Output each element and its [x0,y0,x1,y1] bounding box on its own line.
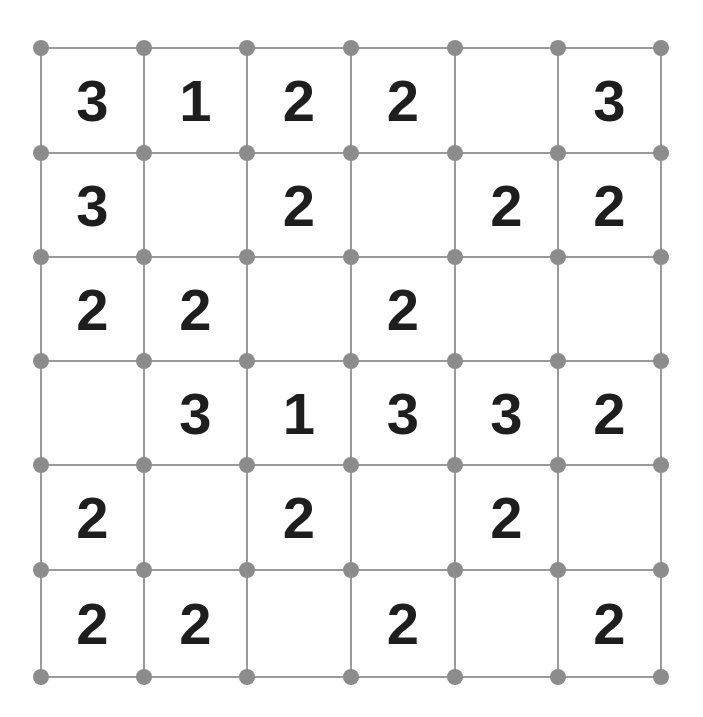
clue-cell: 3 [41,153,144,257]
grid-dot [33,249,49,265]
clue-cell: 2 [455,153,558,257]
slitherlink-board: 312233222222313322222222 [0,0,703,717]
clue-cell: 2 [247,465,351,570]
grid-dot [653,562,669,578]
grid-dot [33,40,49,56]
clue-cell: 2 [558,153,661,257]
grid-dot [653,40,669,56]
clue-cell: 3 [144,361,247,465]
clue-cell [558,257,661,361]
grid-dot [447,562,463,578]
clue-cell: 2 [41,570,144,677]
clue-cell [247,570,351,677]
grid-dot [343,562,359,578]
clue-cell: 2 [144,570,247,677]
clue-cell: 2 [351,48,455,153]
grid-dot [136,353,152,369]
grid-dot [550,353,566,369]
clue-cell: 3 [558,48,661,153]
grid-dot [447,249,463,265]
grid-dot [343,249,359,265]
grid-dot [33,669,49,685]
grid-dot [343,40,359,56]
clue-cell: 3 [351,361,455,465]
clue-cell: 3 [41,48,144,153]
grid-dot [653,353,669,369]
grid-dot [550,562,566,578]
grid-dot [33,457,49,473]
grid-dot [239,40,255,56]
grid-dot [136,145,152,161]
clue-cell: 2 [558,570,661,677]
clue-cell [144,153,247,257]
grid-dot [33,145,49,161]
grid-dot [550,669,566,685]
grid-dot [343,145,359,161]
grid-dot [33,562,49,578]
grid-dot [136,40,152,56]
grid-dot [653,457,669,473]
grid-dot [447,145,463,161]
clue-cell: 2 [351,257,455,361]
grid-dot [653,249,669,265]
clue-cell: 2 [351,570,455,677]
grid-dot [136,457,152,473]
grid-dot [447,40,463,56]
clue-cell [351,465,455,570]
clue-cell [41,361,144,465]
grid-dot [33,353,49,369]
clue-cell: 2 [558,361,661,465]
clue-cell: 2 [144,257,247,361]
grid-dot [550,40,566,56]
grid-dot [239,669,255,685]
clue-cell: 2 [247,48,351,153]
clue-cell [558,465,661,570]
grid-dot [550,145,566,161]
clue-cell [455,570,558,677]
grid-dot [136,249,152,265]
clue-cell: 1 [144,48,247,153]
grid-dot [239,457,255,473]
clue-cell [247,257,351,361]
clue-cell: 1 [247,361,351,465]
grid-dot [653,669,669,685]
clue-cell [351,153,455,257]
grid-dot [653,145,669,161]
clue-cell [144,465,247,570]
grid-dot [136,562,152,578]
grid-dot [343,353,359,369]
clue-cell: 3 [455,361,558,465]
grid-dot [447,353,463,369]
grid-dot [447,669,463,685]
grid-dot [343,669,359,685]
grid-dot [550,249,566,265]
clue-cell: 2 [41,257,144,361]
clue-cell [455,257,558,361]
grid-dot [239,562,255,578]
clue-cell: 2 [41,465,144,570]
clue-cell [455,48,558,153]
grid-dot [239,249,255,265]
clue-cell: 2 [455,465,558,570]
grid-dot [550,457,566,473]
grid-dot [343,457,359,473]
clue-cell: 2 [247,153,351,257]
grid-dot [136,669,152,685]
grid-dot [239,145,255,161]
grid-dot [447,457,463,473]
grid-dot [239,353,255,369]
